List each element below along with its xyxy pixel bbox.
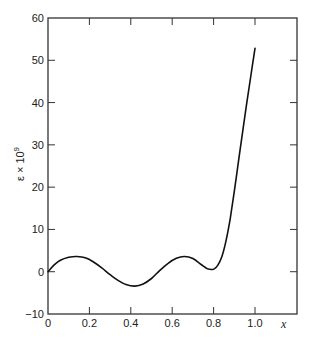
x-axis-label: x [280,317,287,331]
x-axis-tick-labels: 00.20.40.60.81.0 [45,317,263,329]
y-tick-label: 40 [32,97,44,109]
y-tick-label: 0 [38,266,44,278]
chart: 00.20.40.60.81.0 −100102030405060 x ε × … [0,0,309,339]
plot-frame [48,18,297,314]
y-axis-tick-labels: −100102030405060 [25,12,44,320]
y-tick-label: 50 [32,54,44,66]
y-tick-label: 60 [32,12,44,24]
x-tick-label: 0.6 [165,317,180,329]
data-curve [48,48,255,286]
y-axis-label: ε × 109 [12,146,26,181]
y-axis-label-exponent: 9 [12,146,21,151]
plot-border [48,18,297,314]
y-tick-label: 10 [32,223,44,235]
y-tick-label: 30 [32,139,44,151]
axis-ticks [48,18,297,314]
x-tick-label: 0.4 [123,317,138,329]
y-axis-label-base: ε × 10 [14,151,26,181]
y-tick-label: −10 [25,308,44,320]
x-tick-label: 0.2 [82,317,97,329]
y-tick-label: 20 [32,181,44,193]
x-tick-label: 0 [45,317,51,329]
x-tick-label: 0.8 [206,317,221,329]
x-tick-label: 1.0 [247,317,262,329]
